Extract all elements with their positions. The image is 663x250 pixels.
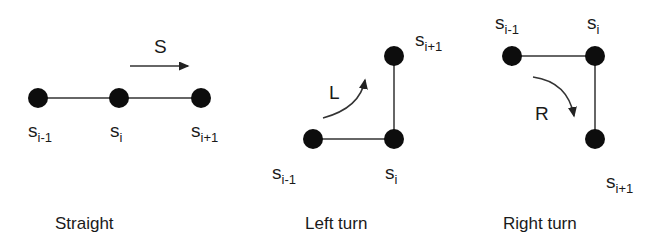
node-label-sub: i+1 [201,130,219,145]
node-label-sub: i [395,172,398,187]
node-label-base: s [191,120,201,141]
node-label-base: s [28,120,38,141]
node-s-i+1 [191,88,211,108]
node-label: si+1 [191,121,218,144]
diagram-canvas [0,0,663,250]
node-label-sub: i-1 [282,172,296,187]
node-label: si-1 [495,13,519,36]
node-label-base: s [272,162,282,183]
node-s-i [585,46,605,66]
straight-panel [28,66,211,108]
node-label: si+1 [415,30,442,53]
left-turn-panel [303,46,404,149]
node-label: si [587,13,599,36]
node-label: si+1 [606,172,633,195]
node-label-sub: i-1 [505,22,519,37]
node-label: si-1 [272,163,296,186]
node-label: si-1 [28,121,52,144]
node-label-base: s [385,162,395,183]
node-label-sub: i+1 [425,39,443,54]
node-s-i-1 [28,88,48,108]
caption-straight: Straight [55,214,114,234]
node-s-i+1 [585,129,605,149]
direction-label-straight: S [154,36,167,58]
node-label-sub: i [597,22,600,37]
node-label: si [110,121,122,144]
direction-label-right: R [535,103,549,125]
node-s-i-1 [502,46,522,66]
node-label-sub: i-1 [38,130,52,145]
node-label-base: s [110,120,120,141]
caption-right-turn: Right turn [503,214,577,234]
direction-label-left: L [329,82,340,104]
node-label: si [385,163,397,186]
node-label-sub: i+1 [616,181,634,196]
node-s-i [109,88,129,108]
node-label-base: s [587,12,597,33]
node-label-base: s [606,171,616,192]
caption-left-turn: Left turn [305,214,367,234]
node-label-base: s [415,29,425,50]
node-s-i [384,129,404,149]
node-label-sub: i [120,130,123,145]
node-label-base: s [495,12,505,33]
right-turn-panel [502,46,605,149]
node-s-i+1 [384,46,404,66]
node-s-i-1 [303,129,323,149]
